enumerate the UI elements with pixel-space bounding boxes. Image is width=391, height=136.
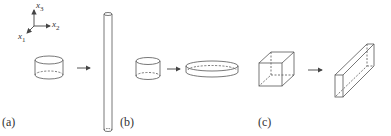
panel-label-b: (b)	[120, 115, 134, 130]
bar-c	[335, 44, 374, 97]
disc-b	[186, 61, 238, 77]
axis-label-x1: x1	[18, 31, 26, 44]
panel-label-a: (a)	[2, 115, 15, 130]
cylinder-a	[35, 56, 63, 79]
cylinder-b	[136, 58, 160, 80]
coordinate-axes-icon	[27, 10, 50, 33]
axis-label-x3: x3	[36, 0, 44, 13]
panel-label-c: (c)	[258, 115, 271, 130]
cube-c	[259, 52, 294, 86]
rod-a	[104, 13, 112, 132]
axis-label-x2: x2	[52, 19, 60, 32]
